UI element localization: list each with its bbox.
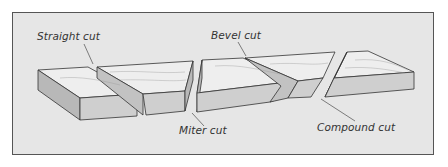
label-miter-cut: Miter cut xyxy=(179,124,227,136)
board-compound-right xyxy=(325,51,414,97)
label-bevel-cut: Bevel cut xyxy=(211,29,261,41)
wood-cuts-illustration xyxy=(0,0,448,167)
label-compound-cut: Compound cut xyxy=(317,121,395,133)
label-straight-cut: Straight cut xyxy=(37,30,100,42)
